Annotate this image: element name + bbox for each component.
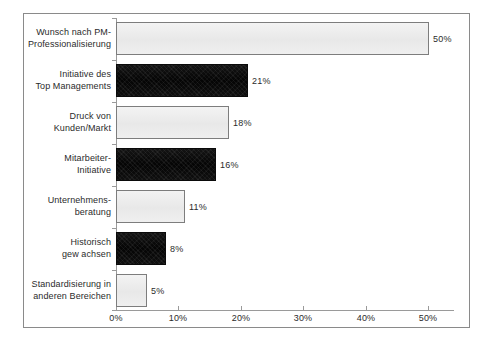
value-tick xyxy=(366,306,367,311)
bar-value-label: 18% xyxy=(233,118,252,128)
bar-mitarbeiter-initiative xyxy=(116,148,216,181)
category-label: Wunsch nach PM- Professionalisierung xyxy=(28,27,111,50)
plot-area: 0% 10% 20% 30% 40% 50% Wunsch nach PM- P… xyxy=(0,0,492,348)
value-axis-line xyxy=(116,310,454,311)
value-tick xyxy=(241,306,242,311)
category-label: Mitarbeiter- Initiative xyxy=(64,153,111,176)
bar-historisch-gewachsen xyxy=(116,232,166,265)
bar-initiative-des-top-managements xyxy=(116,64,248,97)
bar-chart-figure: 0% 10% 20% 30% 40% 50% Wunsch nach PM- P… xyxy=(0,0,492,348)
category-label-line: Initiative xyxy=(64,165,111,177)
value-tick-label: 40% xyxy=(357,313,376,323)
category-label-line: Kunden/Markt xyxy=(54,123,111,135)
category-tick xyxy=(112,270,117,271)
bar-value-label: 11% xyxy=(189,202,207,212)
bar-value-label: 16% xyxy=(220,160,239,170)
category-label-line: Top Managements xyxy=(35,81,111,93)
value-tick-label: 50% xyxy=(419,313,438,323)
category-label-line: Standardisierung in xyxy=(32,279,111,291)
category-label-line: Initiative des xyxy=(35,69,111,81)
category-tick xyxy=(112,18,117,19)
value-tick-label: 20% xyxy=(232,313,251,323)
category-label: Unternehmens- beratung xyxy=(48,195,111,218)
category-tick xyxy=(112,144,117,145)
value-tick-label: 0% xyxy=(109,313,122,323)
category-tick xyxy=(112,60,117,61)
bar-value-label: 21% xyxy=(252,76,271,86)
bar-druck-von-kunden-markt xyxy=(116,106,229,139)
bar-value-label: 8% xyxy=(170,244,183,254)
category-label: Druck von Kunden/Markt xyxy=(54,111,111,134)
category-label-line: Druck von xyxy=(54,111,111,123)
bar-wunsch-nach-pm-professionalisierung xyxy=(116,22,429,55)
category-tick xyxy=(112,102,117,103)
category-label-line: Mitarbeiter- xyxy=(64,153,111,165)
bar-standardisierung-in-anderen-bereichen xyxy=(116,274,147,307)
category-tick xyxy=(112,228,117,229)
value-tick-label: 10% xyxy=(169,313,188,323)
bar-value-label: 5% xyxy=(151,286,164,296)
category-label: Standardisierung in anderen Bereichen xyxy=(32,279,111,302)
category-label: Historisch gew achsen xyxy=(62,237,111,260)
category-label-line: Historisch xyxy=(62,237,111,249)
category-label-line: Unternehmens- xyxy=(48,195,111,207)
category-label-line: gew achsen xyxy=(62,249,111,261)
value-tick xyxy=(428,306,429,311)
category-tick xyxy=(112,186,117,187)
bar-unternehmensberatung xyxy=(116,190,185,223)
category-label-line: beratung xyxy=(48,207,111,219)
category-label-line: Wunsch nach PM- xyxy=(28,27,111,39)
value-tick-label: 30% xyxy=(294,313,313,323)
category-label: Initiative des Top Managements xyxy=(35,69,111,92)
bar-value-label: 50% xyxy=(433,34,452,44)
category-label-line: Professionalisierung xyxy=(28,39,111,51)
category-label-line: anderen Bereichen xyxy=(32,291,111,303)
value-tick xyxy=(178,306,179,311)
value-tick xyxy=(303,306,304,311)
